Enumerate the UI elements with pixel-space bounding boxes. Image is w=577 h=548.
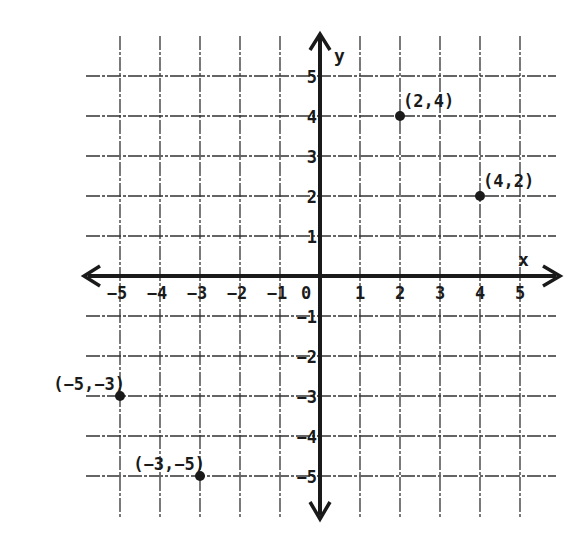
point-label: (−5,−3)	[53, 374, 125, 394]
x-tick-label: −2	[227, 283, 247, 303]
point-label: (4,2)	[483, 171, 534, 191]
x-tick-label: 1	[355, 283, 365, 303]
x-axis-label: x	[518, 249, 529, 270]
y-tick-label: 2	[307, 187, 317, 207]
point-marker-icon	[395, 111, 405, 121]
coordinate-plane: x y −5−4−3−2−1012345 54321−1−2−3−4−5 (2,…	[0, 0, 577, 548]
x-tick-label: −5	[107, 283, 127, 303]
x-tick-label: 2	[395, 283, 405, 303]
x-tick-label: 5	[515, 283, 525, 303]
data-point: (4,2)	[475, 171, 534, 201]
data-point: (−5,−3)	[53, 374, 125, 401]
y-tick-label: 1	[307, 227, 317, 247]
y-tick-label: 4	[307, 107, 317, 127]
x-tick-label: −4	[147, 283, 167, 303]
point-label: (2,4)	[403, 91, 454, 111]
x-tick-label: 0	[301, 283, 311, 303]
y-tick-label: −4	[297, 427, 317, 447]
data-point: (−3,−5)	[133, 454, 205, 481]
point-label: (−3,−5)	[133, 454, 205, 474]
x-tick-label: 4	[475, 283, 485, 303]
x-tick-label: 3	[435, 283, 445, 303]
y-tick-label: 3	[307, 147, 317, 167]
x-tick-label: −1	[267, 283, 287, 303]
y-tick-label: −1	[297, 307, 317, 327]
x-tick-labels: −5−4−3−2−1012345	[107, 283, 525, 303]
x-tick-label: −3	[187, 283, 207, 303]
point-marker-icon	[475, 191, 485, 201]
y-tick-label: −3	[297, 387, 317, 407]
y-tick-label: 5	[307, 67, 317, 87]
y-tick-label: −5	[297, 467, 317, 487]
y-axis-label: y	[334, 45, 345, 66]
y-tick-label: −2	[297, 347, 317, 367]
axes: x y	[84, 34, 560, 519]
